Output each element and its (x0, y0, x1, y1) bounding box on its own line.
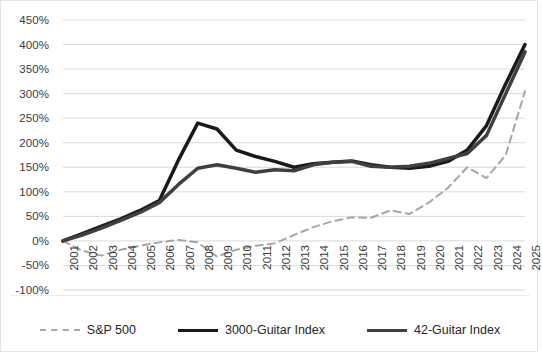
legend-label: 42-Guitar Index (414, 323, 500, 337)
x-axis-tick-label: 2023 (492, 245, 504, 271)
x-axis-tick-label: 2009 (222, 245, 234, 271)
legend-swatch-icon (367, 329, 407, 332)
x-axis-tick-label: 2004 (126, 245, 138, 271)
x-axis-tick-label: 2003 (107, 245, 119, 271)
x-axis-tick-label: 2020 (434, 245, 446, 271)
legend-label: 3000-Guitar Index (225, 323, 325, 337)
y-axis-tick-label: 0% (32, 235, 49, 247)
x-axis-tick-label: 2012 (280, 245, 292, 271)
x-axis-tick-label: 2011 (261, 245, 273, 270)
legend-item[interactable]: 3000-Guitar Index (178, 323, 325, 337)
x-axis-tick-label: 2021 (453, 245, 465, 271)
legend-divider (10, 295, 530, 296)
y-axis-tick-label: 250% (19, 112, 49, 124)
x-axis: 2001200220032004200520062007200820092010… (63, 241, 525, 299)
x-axis-tick-label: 2019 (415, 245, 427, 271)
x-axis-tick-label: 2006 (164, 245, 176, 271)
y-axis-tick-label: 150% (19, 161, 49, 173)
y-axis-tick-label: 300% (19, 88, 49, 100)
legend-label: S&P 500 (87, 323, 136, 337)
chart-legend: S&P 5003000-Guitar Index42-Guitar Index (1, 323, 539, 337)
x-axis-tick-label: 2024 (511, 245, 523, 271)
legend-swatch-icon (178, 329, 218, 332)
y-axis-tick-label: -50% (22, 259, 49, 271)
x-axis-tick-label: 2016 (357, 245, 369, 271)
y-axis-tick-label: 450% (19, 14, 49, 26)
series-line-3000-guitar-index (63, 45, 525, 241)
x-axis-tick-label: 2002 (87, 245, 99, 271)
y-axis-tick-label: 200% (19, 137, 49, 149)
y-axis: 450%400%350%300%250%200%150%100%50%0%-50… (1, 20, 57, 290)
x-axis-tick-label: 2018 (395, 245, 407, 271)
legend-swatch-icon (40, 329, 80, 331)
x-axis-tick-label: 2005 (145, 245, 157, 271)
x-axis-tick-label: 2025 (530, 245, 542, 271)
series-line-s-p-500 (63, 91, 525, 256)
y-axis-tick-label: 100% (19, 186, 49, 198)
x-axis-tick-label: 2017 (376, 245, 388, 271)
x-axis-tick-label: 2007 (184, 245, 196, 271)
legend-item[interactable]: S&P 500 (40, 323, 136, 337)
x-axis-tick-label: 2001 (68, 245, 80, 271)
legend-item[interactable]: 42-Guitar Index (367, 323, 500, 337)
x-axis-tick-label: 2022 (472, 245, 484, 271)
x-axis-tick-label: 2008 (203, 245, 215, 271)
x-axis-tick-label: 2010 (241, 245, 253, 271)
y-axis-tick-label: 350% (19, 63, 49, 75)
x-axis-tick-label: 2013 (299, 245, 311, 271)
x-axis-tick-label: 2015 (338, 245, 350, 271)
x-axis-tick-label: 2014 (318, 245, 330, 271)
y-axis-tick-label: 400% (19, 39, 49, 51)
y-axis-tick-label: 50% (26, 210, 49, 222)
